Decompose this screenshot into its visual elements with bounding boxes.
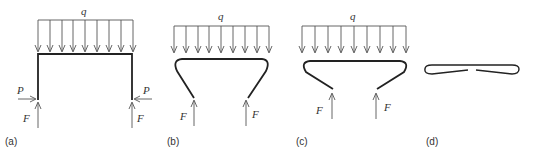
force-arrows-b xyxy=(191,100,249,126)
force-arrows-c xyxy=(329,93,379,119)
frame-c xyxy=(304,61,407,89)
force-label-f-left-a: F xyxy=(23,112,30,124)
force-label-f-right-a: F xyxy=(137,112,144,124)
frame-a xyxy=(38,54,132,100)
panel-d xyxy=(425,65,519,74)
force-label-p-right: P xyxy=(143,84,150,96)
distributed-load-c xyxy=(299,26,409,53)
load-label-a: q xyxy=(81,5,87,17)
panel-a xyxy=(18,20,152,128)
force-label-f-right-b: F xyxy=(252,108,259,120)
frame-b xyxy=(175,59,267,98)
panel-label-b: (b) xyxy=(167,136,179,147)
force-label-f-left-b: F xyxy=(180,110,187,122)
load-label-b: q xyxy=(218,10,224,22)
panel-label-c: (c) xyxy=(296,136,308,147)
distributed-load-b xyxy=(171,26,272,53)
figure: q P P F F (a) q F F (b) q F F (c) (d) xyxy=(0,0,533,157)
distributed-load-a xyxy=(35,20,136,52)
force-arrows-a xyxy=(18,96,152,128)
frame-d xyxy=(425,65,519,74)
force-label-f-left-c: F xyxy=(316,104,323,116)
diagram-canvas xyxy=(0,0,533,157)
load-label-c: q xyxy=(350,10,356,22)
force-label-f-right-c: F xyxy=(384,101,391,113)
force-label-p-left: P xyxy=(17,84,24,96)
panel-label-d: (d) xyxy=(426,136,438,147)
panel-label-a: (a) xyxy=(5,136,17,147)
